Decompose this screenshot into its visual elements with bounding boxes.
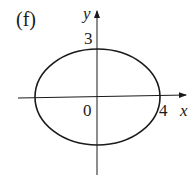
origin-label: 0 — [83, 101, 92, 120]
x-intercept-label: 4 — [159, 101, 168, 120]
panel-label: (f) — [16, 8, 36, 31]
x-axis-label: x — [179, 101, 188, 120]
y-intercept-label: 3 — [84, 29, 93, 48]
ellipse-diagram: (f) y x 3 0 4 — [0, 0, 191, 179]
y-axis-label: y — [81, 4, 91, 23]
x-axis — [18, 95, 186, 98]
